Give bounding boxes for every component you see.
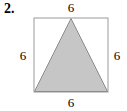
side-length-label-top: 6 [63,1,79,14]
side-length-label-bottom: 6 [63,96,79,109]
geometry-figure-container: 2. 6 6 6 6 [0,0,127,111]
square-with-inscribed-triangle-diagram [33,17,109,93]
problem-number-label: 2. [4,1,15,17]
side-length-label-right: 6 [109,49,125,62]
side-length-label-left: 6 [15,49,31,62]
